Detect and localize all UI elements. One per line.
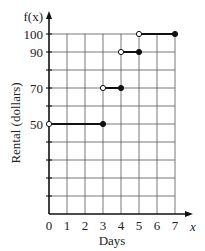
tick-labels: 01234567507090100 xyxy=(24,27,179,234)
x-axis-symbol: x xyxy=(189,219,196,234)
open-point xyxy=(46,121,51,126)
y-tick-label: 50 xyxy=(30,117,43,132)
y-tick-label: 100 xyxy=(24,27,44,42)
x-tick-label: 2 xyxy=(82,218,89,233)
x-tick-label: 5 xyxy=(136,218,143,233)
open-point xyxy=(118,49,123,54)
x-axis-arrow-icon xyxy=(185,211,193,217)
y-axis-label: Rental (dollars) xyxy=(8,82,23,163)
closed-point xyxy=(100,121,105,126)
y-axis-symbol: f(x) xyxy=(24,9,44,24)
x-tick-label: 0 xyxy=(46,218,53,233)
x-tick-label: 4 xyxy=(118,218,125,233)
closed-point xyxy=(136,49,141,54)
x-axis-label: Days xyxy=(99,233,126,248)
x-tick-label: 3 xyxy=(100,218,107,233)
x-tick-label: 7 xyxy=(172,218,179,233)
y-tick-label: 90 xyxy=(30,45,43,60)
y-axis-arrow-icon xyxy=(46,11,52,19)
open-point xyxy=(100,85,105,90)
axes xyxy=(46,11,193,217)
closed-point xyxy=(172,31,177,36)
closed-point xyxy=(118,85,123,90)
y-tick-label: 70 xyxy=(30,81,43,96)
x-tick-label: 6 xyxy=(154,218,161,233)
step-segments xyxy=(46,31,177,126)
step-chart: 01234567507090100 Rental (dollars) Days … xyxy=(0,0,205,251)
open-point xyxy=(136,31,141,36)
x-tick-label: 1 xyxy=(64,218,71,233)
